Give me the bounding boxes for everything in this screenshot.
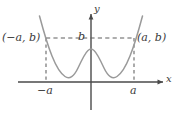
figure-canvas: [0, 0, 177, 123]
x-axis-arrowhead: [158, 80, 164, 85]
x-tick-label-negative-a: −a: [37, 85, 53, 96]
y-axis-arrowhead: [89, 14, 94, 20]
y-axis-label: y: [94, 4, 100, 14]
even-function-figure: (−a, b) (a, b) b −a a y x: [0, 0, 177, 123]
x-tick-label-a: a: [130, 85, 137, 96]
y-value-label-b: b: [78, 31, 85, 42]
x-axis-label: x: [166, 74, 172, 84]
point-label-left: (−a, b): [2, 32, 40, 43]
point-label-right: (a, b): [137, 32, 166, 43]
